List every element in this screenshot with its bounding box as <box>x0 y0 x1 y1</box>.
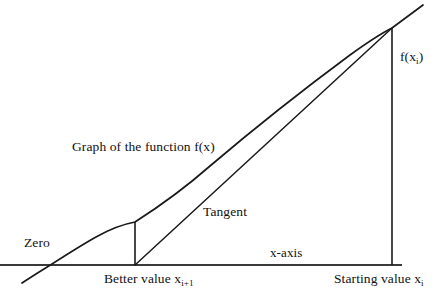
f-of-xi-subscript: i <box>416 56 419 66</box>
starting-value-subscript: i <box>421 278 424 288</box>
starting-value-text: Starting value x <box>334 271 421 286</box>
better-value-label: Better value xi+1 <box>104 272 194 286</box>
tangent-label: Tangent <box>203 205 247 219</box>
zero-label: Zero <box>24 236 50 250</box>
starting-value-label: Starting value xi <box>334 272 424 286</box>
x-axis-label: x-axis <box>270 246 302 259</box>
newton-raphson-diagram <box>0 0 436 300</box>
better-value-text: Better value x <box>104 271 181 286</box>
figure-canvas: Zero Graph of the function f(x) Tangent … <box>0 0 436 300</box>
graph-of-function-label: Graph of the function f(x) <box>72 140 215 154</box>
better-value-subscript: i+1 <box>181 278 194 288</box>
f-of-xi-label: f(xi) <box>400 50 423 64</box>
f-of-xi-tail: ) <box>419 49 424 64</box>
f-of-xi-main: f(x <box>400 49 416 64</box>
